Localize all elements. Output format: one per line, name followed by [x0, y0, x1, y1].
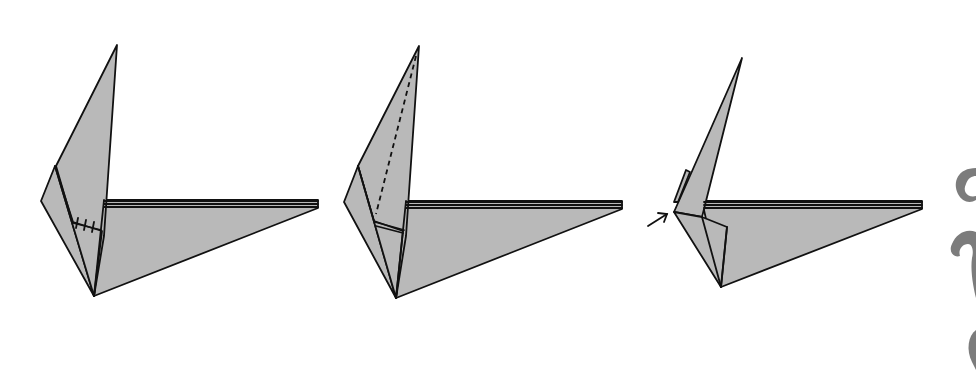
step-2-model: [344, 46, 622, 298]
step-3-layer-lines: [704, 202, 922, 208]
step-3-horizontal-flap: [702, 201, 922, 287]
step-3-lower-body: [674, 212, 727, 287]
step-2-layer-lines: [406, 202, 622, 208]
step-3-upright-point: [674, 58, 742, 217]
push-arrow-icon: [648, 213, 667, 226]
decorative-swirl-icon: [951, 168, 976, 370]
step-3-model: [648, 58, 922, 287]
step-2-horizontal-flap: [396, 201, 622, 298]
step-1-model: [41, 45, 318, 296]
origami-diagram: [0, 0, 976, 370]
step-1-layer-lines: [104, 201, 318, 207]
step-1-horizontal-flap: [94, 200, 318, 296]
